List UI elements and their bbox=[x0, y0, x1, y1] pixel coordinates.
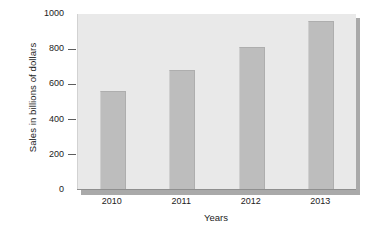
x-axis-tick-label: 2011 bbox=[151, 195, 211, 207]
y-axis-tick-mark bbox=[68, 154, 76, 155]
bar bbox=[308, 21, 334, 190]
bar bbox=[100, 91, 126, 190]
y-axis-tick-mark bbox=[68, 84, 76, 85]
x-axis-line bbox=[77, 189, 356, 190]
x-axis-tick-label: 2010 bbox=[82, 195, 142, 207]
y-axis-title: Sales in billions of dollars bbox=[27, 13, 38, 183]
y-axis-tick-marks bbox=[68, 0, 77, 241]
bar-chart: 02004006008001000 Sales in billions of d… bbox=[0, 0, 374, 241]
x-axis-title: Years bbox=[77, 212, 355, 223]
y-axis-tick-mark bbox=[68, 119, 76, 120]
bar bbox=[239, 47, 265, 190]
plot-area bbox=[77, 14, 356, 190]
x-axis-tick-labels: 2010201120122013 bbox=[77, 195, 355, 209]
y-axis-tick-mark bbox=[68, 49, 76, 50]
x-axis-tick-label: 2013 bbox=[290, 195, 350, 207]
y-axis-tick-label: 0 bbox=[28, 185, 64, 194]
bar bbox=[169, 70, 195, 190]
x-axis-tick-label: 2012 bbox=[221, 195, 281, 207]
